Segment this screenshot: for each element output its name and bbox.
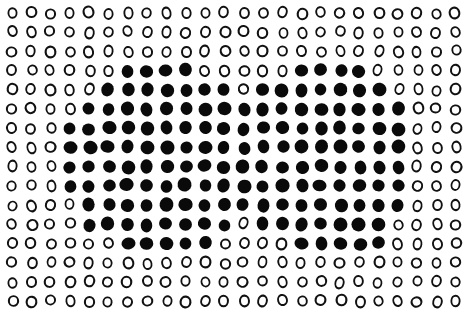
open-circle (410, 179, 424, 194)
filled-dot (178, 197, 193, 211)
open-circle (103, 8, 114, 20)
filled-dot (159, 217, 173, 230)
filled-dot (312, 197, 329, 213)
open-circle (24, 294, 38, 308)
open-circle (46, 255, 57, 268)
filled-dot (350, 102, 367, 118)
filled-dot (371, 82, 387, 97)
filled-dot (391, 121, 407, 137)
filled-dot (198, 178, 212, 193)
filled-dot (315, 235, 328, 250)
open-circle (412, 237, 423, 251)
open-circle (391, 236, 405, 251)
filled-dot (159, 82, 176, 99)
filled-dot (352, 179, 367, 193)
filled-dot (256, 179, 270, 193)
open-circle (296, 7, 309, 21)
filled-dot (140, 178, 154, 192)
open-circle (178, 26, 193, 41)
open-circle (295, 256, 306, 269)
open-circle (449, 219, 462, 231)
open-circle (6, 199, 19, 212)
open-circle (333, 257, 345, 269)
open-circle (413, 64, 423, 76)
open-circle (333, 275, 346, 290)
open-circle (392, 218, 405, 231)
open-circle (448, 25, 461, 39)
open-circle (179, 294, 192, 308)
open-circle (410, 218, 423, 232)
open-circle (82, 44, 95, 59)
open-circle (24, 82, 36, 96)
filled-dot (159, 101, 173, 115)
open-circle (103, 65, 114, 78)
filled-dot (371, 235, 387, 250)
open-circle (6, 236, 19, 250)
open-circle (65, 294, 77, 308)
open-circle (63, 83, 75, 97)
filled-dot (120, 139, 134, 155)
filled-dot (139, 102, 154, 119)
open-circle (141, 274, 154, 287)
filled-dot (257, 198, 270, 213)
filled-dot (274, 119, 291, 136)
filled-dot (101, 216, 115, 231)
open-circle (23, 101, 38, 117)
filled-dot (159, 120, 173, 136)
filled-dot (119, 178, 134, 192)
open-circle (180, 45, 192, 58)
open-circle (4, 139, 17, 154)
filled-dot (140, 82, 154, 98)
filled-dot (180, 84, 192, 97)
open-circle (218, 63, 232, 78)
filled-dot (199, 235, 213, 250)
filled-dot (237, 121, 251, 137)
filled-dot (294, 177, 310, 194)
filled-dot (120, 101, 136, 117)
open-circle (82, 82, 96, 98)
open-circle (218, 25, 233, 40)
filled-dot (140, 218, 152, 232)
open-circle (200, 276, 212, 289)
open-circle (315, 256, 327, 269)
open-circle (46, 179, 57, 193)
filled-dot (217, 218, 230, 232)
filled-dot (217, 197, 232, 213)
filled-dot (158, 236, 175, 252)
open-circle (411, 159, 423, 173)
filled-dot (314, 102, 328, 115)
filled-dot (216, 139, 230, 154)
filled-dot (102, 197, 116, 212)
filled-dot (81, 159, 96, 173)
open-circle (102, 25, 115, 38)
open-circle (334, 44, 347, 58)
open-circle (295, 44, 308, 58)
filled-dot (295, 64, 309, 76)
open-circle (43, 197, 57, 212)
open-circle (313, 293, 327, 307)
open-circle (296, 25, 309, 39)
open-circle (63, 26, 75, 39)
open-circle (432, 198, 443, 211)
open-circle (5, 256, 17, 268)
open-circle (62, 255, 77, 269)
open-circle (141, 257, 153, 271)
open-circle (450, 178, 462, 192)
open-circle (83, 25, 95, 40)
open-circle (44, 63, 57, 77)
open-circle (24, 217, 39, 232)
filled-dot (275, 102, 288, 116)
filled-dot (275, 198, 289, 212)
open-circle (45, 8, 56, 19)
filled-dot (273, 176, 291, 194)
filled-dot (216, 177, 232, 194)
filled-dot (63, 141, 78, 154)
open-circle (449, 276, 461, 288)
filled-dot (158, 64, 172, 77)
filled-dot (294, 101, 311, 118)
filled-dot (256, 120, 271, 134)
filled-dot (198, 82, 212, 96)
filled-dot (371, 120, 388, 137)
open-circle (410, 6, 424, 21)
open-circle (24, 140, 37, 155)
